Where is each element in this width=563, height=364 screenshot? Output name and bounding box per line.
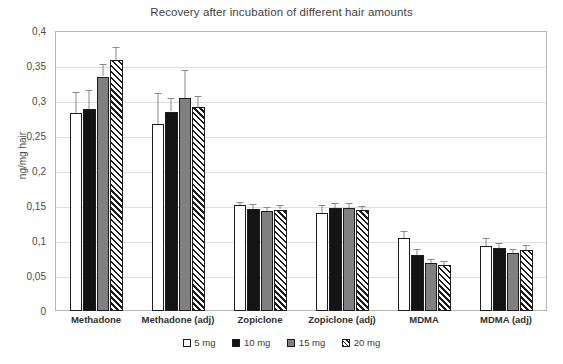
y-axis-tick: 0,25: [27, 131, 46, 142]
gridline: [56, 67, 546, 68]
x-axis-tick: Zopiclone (adj): [308, 314, 376, 325]
legend-label: 20 mg: [354, 338, 380, 348]
legend-item[interactable]: 5 mg: [183, 338, 216, 348]
y-axis-tick: 0,1: [32, 236, 46, 247]
y-axis-tick: 0: [40, 306, 46, 317]
y-axis-tick: 0,15: [27, 201, 46, 212]
y-axis-tick: 0,2: [32, 166, 46, 177]
y-axis-tick: 0,4: [32, 26, 46, 37]
y-axis-tick-labels: 00,050,10,150,20,250,30,350,4: [0, 31, 52, 311]
y-axis-tick: 0,35: [27, 61, 46, 72]
legend-item[interactable]: 20 mg: [342, 338, 380, 348]
legend-item[interactable]: 10 mg: [232, 338, 270, 348]
legend-label: 15 mg: [299, 338, 325, 348]
legend-swatch-icon: [232, 339, 240, 347]
x-axis-tick: Methadone (adj): [142, 314, 215, 325]
x-axis-tick-labels: MethadoneMethadone (adj)ZopicloneZopiclo…: [55, 314, 547, 332]
y-axis-tick: 0,3: [32, 96, 46, 107]
y-axis-tick: 0,05: [27, 271, 46, 282]
legend-swatch-icon: [287, 339, 295, 347]
gridlines: [56, 32, 546, 310]
gridline: [56, 242, 546, 243]
gridline: [56, 137, 546, 138]
legend-swatch-icon: [183, 339, 191, 347]
chart-title: Recovery after incubation of different h…: [0, 6, 563, 18]
gridline: [56, 277, 546, 278]
chart-legend: 5 mg10 mg15 mg20 mg: [0, 338, 563, 348]
gridline: [56, 172, 546, 173]
legend-label: 10 mg: [244, 338, 270, 348]
legend-item[interactable]: 15 mg: [287, 338, 325, 348]
gridline: [56, 207, 546, 208]
x-axis-tick: MDMA: [409, 314, 439, 325]
x-axis-tick: Methadone: [71, 314, 121, 325]
plot-area: [55, 31, 547, 311]
legend-label: 5 mg: [194, 338, 215, 348]
x-axis-tick: Zopiclone: [238, 314, 283, 325]
gridline: [56, 102, 546, 103]
legend-swatch-icon: [342, 339, 350, 347]
x-axis-tick: MDMA (adj): [480, 314, 532, 325]
